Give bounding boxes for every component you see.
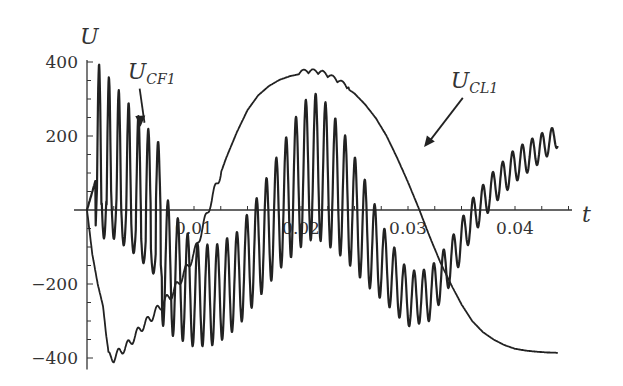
x-tick-label: 0.01 [175, 218, 213, 238]
y-tick-labels: −400−200200400 [31, 52, 78, 368]
x-tick-label: 0.04 [496, 218, 534, 238]
x-axis-label: t [582, 202, 591, 227]
annotation-label: UCF1 [128, 59, 176, 87]
annotation-arrow [428, 98, 463, 143]
x-tick-label: 0.03 [389, 218, 427, 238]
y-tick-label: −400 [31, 348, 78, 368]
y-tick-label: −200 [31, 274, 78, 294]
y-tick-label: 200 [46, 126, 78, 146]
series-ucf1-line [87, 65, 558, 347]
y-tick-label: 400 [46, 52, 78, 72]
annotation-label: UCL1 [451, 68, 498, 96]
line-chart: U t −400−200200400 0.010.020.030.04 UCF1… [0, 0, 623, 386]
y-axis-label: U [80, 24, 100, 49]
